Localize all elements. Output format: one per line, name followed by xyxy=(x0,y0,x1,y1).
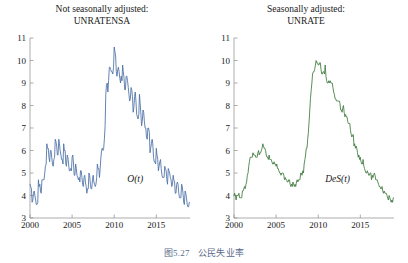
caption-number: 图5.27 xyxy=(164,248,190,258)
plot-area-adjusted: 345678910112000200520102015DeS(t) xyxy=(234,38,394,218)
y-tick-label: 8 xyxy=(226,101,231,111)
y-tick-label: 11 xyxy=(17,33,26,43)
x-tick-label: 2010 xyxy=(309,220,328,230)
y-tick-label: 10 xyxy=(221,56,231,66)
y-tick-label: 11 xyxy=(221,33,230,43)
y-tick-label: 8 xyxy=(22,101,27,111)
data-series-line xyxy=(30,47,189,207)
y-tick-label: 5 xyxy=(226,168,231,178)
caption-text: 公民失业率 xyxy=(198,248,245,258)
curve-label: O(t) xyxy=(127,174,143,185)
y-tick-label: 7 xyxy=(22,123,27,133)
figure-caption: 图5.27公民失业率 xyxy=(0,246,408,259)
y-tick-label: 5 xyxy=(22,168,27,178)
x-tick-label: 2010 xyxy=(105,220,124,230)
x-tick-label: 2005 xyxy=(63,220,82,230)
panel-title-unadjusted: Not seasonally adjusted: UNRATENSA xyxy=(0,3,204,27)
y-tick-label: 7 xyxy=(226,123,231,133)
x-tick-label: 2015 xyxy=(351,220,370,230)
panel-title-adjusted: Seasonally adjusted: UNRATE xyxy=(204,3,408,27)
data-series-line xyxy=(234,61,393,203)
panel-title-line1: Seasonally adjusted: xyxy=(267,4,345,14)
curve-label: DeS(t) xyxy=(324,174,350,185)
y-tick-label: 6 xyxy=(226,146,231,156)
y-tick-label: 10 xyxy=(17,56,27,66)
figure-container: Not seasonally adjusted: UNRATENSA 34567… xyxy=(0,0,408,263)
plot-area-unadjusted: 345678910112000200520102015O(t) xyxy=(30,38,190,218)
x-tick-label: 2000 xyxy=(225,220,244,230)
y-tick-label: 9 xyxy=(22,78,27,88)
y-tick-label: 4 xyxy=(226,191,231,201)
x-tick-label: 2000 xyxy=(21,220,40,230)
chart-panels: Not seasonally adjusted: UNRATENSA 34567… xyxy=(0,0,408,240)
panel-adjusted: Seasonally adjusted: UNRATE 345678910112… xyxy=(204,0,408,240)
y-tick-label: 9 xyxy=(226,78,231,88)
panel-unadjusted: Not seasonally adjusted: UNRATENSA 34567… xyxy=(0,0,204,240)
line-chart-adjusted: 345678910112000200520102015DeS(t) xyxy=(234,38,394,218)
panel-title-line2: UNRATE xyxy=(204,15,408,27)
panel-title-line2: UNRATENSA xyxy=(0,15,204,27)
y-tick-label: 4 xyxy=(22,191,27,201)
x-tick-label: 2015 xyxy=(147,220,166,230)
line-chart-unadjusted: 345678910112000200520102015O(t) xyxy=(30,38,190,218)
x-tick-label: 2005 xyxy=(267,220,286,230)
panel-title-line1: Not seasonally adjusted: xyxy=(56,4,149,14)
y-tick-label: 6 xyxy=(22,146,27,156)
